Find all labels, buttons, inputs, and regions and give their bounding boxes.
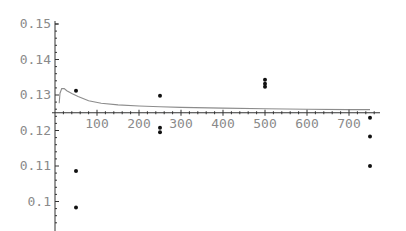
data-point [368,116,372,120]
y-tick-label: 0.1 [28,194,51,209]
y-tick-label: 0.11 [20,158,51,173]
y-tick-label: 0.14 [20,52,51,67]
data-point [263,78,267,82]
scatter-chart: 1002003004005006007000.10.110.120.130.14… [0,0,406,231]
x-tick-label: 300 [169,116,192,131]
data-point [158,126,162,130]
data-points [74,78,372,210]
data-point [368,164,372,168]
x-tick-label: 500 [253,116,276,131]
x-tick-label: 400 [211,116,234,131]
data-point [74,206,78,210]
fitted-curve [59,89,370,110]
x-tick-label: 200 [127,116,150,131]
data-point [158,130,162,134]
data-point [158,94,162,98]
x-tick-label: 600 [295,116,318,131]
data-point [368,135,372,139]
x-tick-label: 700 [337,116,360,131]
y-tick-label: 0.15 [20,16,51,31]
y-tick-label: 0.12 [20,123,51,138]
y-tick-label: 0.13 [20,87,51,102]
curve-line [59,89,370,110]
x-tick-label: 100 [85,116,108,131]
data-point [74,89,78,93]
data-point [263,85,267,89]
data-point [74,169,78,173]
